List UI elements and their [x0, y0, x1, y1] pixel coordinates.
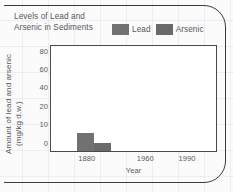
bar-arsenic	[94, 143, 111, 151]
x-axis-title: Year	[50, 166, 217, 175]
page-background: Levels of Lead and Arsenic in Sediments …	[0, 0, 233, 192]
legend-item-lead: Lead	[112, 24, 151, 35]
y-axis-title-line-1: Amount of lead and arsenic	[4, 54, 13, 154]
chart-legend: Lead Arsenic	[112, 24, 204, 35]
y-axis-title: Amount of lead and arsenic (mg/kg d.w.)	[2, 44, 26, 154]
x-axis-tick-labels: 188019601990	[50, 154, 217, 166]
x-tick-label: 1990	[178, 154, 195, 163]
y-tick-label: 20	[32, 101, 48, 110]
y-tick-label: 80	[32, 46, 48, 55]
y-tick-label: 60	[32, 65, 48, 74]
x-tick-label: 1960	[137, 154, 154, 163]
y-tick-label: 40	[32, 83, 48, 92]
y-tick-label: 0	[32, 139, 48, 148]
legend-label-lead: Lead	[132, 25, 151, 34]
plot-area	[50, 45, 217, 152]
chart-figure: Levels of Lead and Arsenic in Sediments …	[0, 0, 233, 192]
chart-title: Levels of Lead and Arsenic in Sediments	[14, 12, 119, 33]
legend-swatch-lead	[112, 24, 129, 35]
y-tick-label: 10	[32, 119, 48, 128]
legend-label-arsenic: Arsenic	[176, 25, 204, 34]
legend-swatch-arsenic	[156, 24, 173, 35]
y-axis-tick-labels: 80604020100	[30, 45, 48, 152]
chart-title-line-1: Levels of Lead and	[14, 12, 119, 23]
bar-lead	[77, 133, 94, 151]
legend-item-arsenic: Arsenic	[156, 24, 204, 35]
x-tick-label: 1880	[78, 154, 95, 163]
chart-title-line-2: Arsenic in Sediments	[14, 23, 119, 34]
y-axis-title-line-2: (mg/kg d.w.)	[14, 101, 23, 146]
